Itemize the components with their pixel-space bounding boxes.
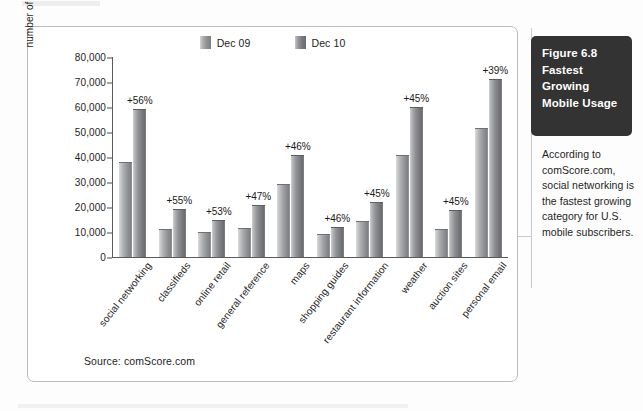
bar-group-bars: +45% <box>429 57 469 257</box>
bar-group-bars: +47% <box>232 57 272 257</box>
figure-callout-box: Figure 6.8 Fastest Growing Mobile Usage <box>531 36 632 136</box>
y-axis-tick-20000: 20,000 <box>46 202 106 213</box>
bar-dec09[interactable] <box>356 221 369 258</box>
x-axis-label: classifieds <box>155 260 193 304</box>
bar-dec09[interactable] <box>277 184 290 258</box>
bar-dec09[interactable] <box>396 155 409 257</box>
x-axis-label: auction sites <box>426 260 470 312</box>
bar-growth-label: +45% <box>364 188 389 199</box>
y-axis-tick-70000: 70,000 <box>46 77 106 88</box>
page-edge-artifact-bottom <box>18 404 408 408</box>
bar-growth-label: +53% <box>206 206 231 217</box>
bar-group: +55% <box>153 57 193 257</box>
bar-group-bars: +45% <box>350 57 390 257</box>
bar-dec10[interactable]: +45% <box>370 202 383 257</box>
bar-group: +45% <box>390 57 430 257</box>
bar-group: +46% <box>311 57 351 257</box>
y-axis-title: number of U.S. users <box>24 0 35 91</box>
bar-growth-label: +39% <box>483 65 508 76</box>
x-axis-line <box>112 257 508 258</box>
x-axis-label: maps <box>287 260 311 286</box>
bar-group-bars: +45% <box>390 57 430 257</box>
bar-group-bars: +39% <box>469 57 509 257</box>
y-axis-tick-labels: 010,00020,00030,00040,00050,00060,00070,… <box>46 27 106 381</box>
x-axis-label: online retail <box>191 260 232 308</box>
bar-dec10[interactable]: +47% <box>252 205 265 257</box>
bar-dec09[interactable] <box>159 229 172 257</box>
x-axis-label: weather <box>399 260 430 295</box>
bar-dec10[interactable]: +46% <box>331 227 344 257</box>
bar-dec10[interactable]: +46% <box>291 155 304 257</box>
y-axis-tick-40000: 40,000 <box>46 152 106 163</box>
y-axis-tick-80000: 80,000 <box>46 52 106 63</box>
y-axis-title-text: number of U.S. users <box>24 0 35 47</box>
side-divider-horizontal <box>518 236 532 237</box>
bar-group: +56% <box>113 57 153 257</box>
bar-group: +46% <box>271 57 311 257</box>
bar-dec10[interactable]: +45% <box>410 107 423 257</box>
bar-growth-label: +55% <box>167 195 192 206</box>
y-axis-tick-60000: 60,000 <box>46 102 106 113</box>
chart-panel: Dec 09 Dec 10 number of U.S. users 010,0… <box>27 26 518 382</box>
plot-area: number of U.S. users 010,00020,00030,000… <box>28 27 517 381</box>
figure-root: Dec 09 Dec 10 number of U.S. users 010,0… <box>0 0 643 411</box>
bar-group-bars: +46% <box>311 57 351 257</box>
bar-dec10[interactable]: +45% <box>449 210 462 257</box>
bar-dec09[interactable] <box>198 232 211 257</box>
y-axis-tick-0: 0 <box>46 252 106 263</box>
bars-container: +56%+55%+53%+47%+46%+46%+45%+45%+45%+39% <box>113 57 508 257</box>
y-axis-tick-30000: 30,000 <box>46 177 106 188</box>
bar-growth-label: +45% <box>404 93 429 104</box>
bar-dec09[interactable] <box>238 228 251 258</box>
bar-dec10[interactable]: +53% <box>212 220 225 257</box>
bar-dec09[interactable] <box>435 229 448 257</box>
figure-callout-title: Figure 6.8 Fastest Growing Mobile Usage <box>542 45 623 111</box>
bar-group-bars: +55% <box>153 57 193 257</box>
bar-growth-label: +45% <box>443 196 468 207</box>
bar-group: +39% <box>469 57 509 257</box>
bar-growth-label: +47% <box>246 191 271 202</box>
bar-dec10[interactable]: +56% <box>133 109 146 257</box>
bar-dec10[interactable]: +39% <box>489 79 502 257</box>
figure-caption: According to comScore.com, social networ… <box>542 147 640 241</box>
bar-growth-label: +56% <box>127 95 152 106</box>
bar-group: +53% <box>192 57 232 257</box>
bar-growth-label: +46% <box>285 141 310 152</box>
bar-dec09[interactable] <box>317 234 330 257</box>
bar-group: +45% <box>350 57 390 257</box>
bar-group-bars: +56% <box>113 57 153 257</box>
source-note: Source: comScore.com <box>84 355 195 367</box>
bar-dec09[interactable] <box>475 128 488 257</box>
bar-dec10[interactable]: +55% <box>173 209 186 258</box>
y-axis-tick-50000: 50,000 <box>46 127 106 138</box>
y-axis-tick-10000: 10,000 <box>46 227 106 238</box>
bar-group-bars: +53% <box>192 57 232 257</box>
bar-group-bars: +46% <box>271 57 311 257</box>
bar-dec09[interactable] <box>119 162 132 257</box>
bar-group: +45% <box>429 57 469 257</box>
bar-group: +47% <box>232 57 272 257</box>
bar-growth-label: +46% <box>325 213 350 224</box>
